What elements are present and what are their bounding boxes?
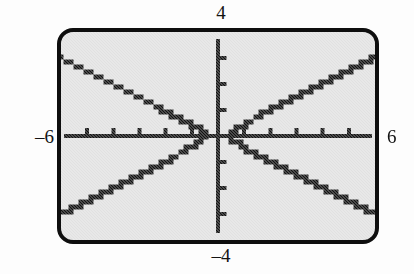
calculator-screen	[57, 28, 379, 244]
y-axis-max-label: 4	[0, 3, 414, 22]
x-axis-min-label: –6	[14, 127, 54, 146]
y-axis-min-label: –4	[0, 246, 414, 265]
x-axis-max-label: 6	[387, 127, 411, 146]
figure-canvas: 4 –6 6 –4	[0, 0, 414, 274]
hyperbola-plot	[61, 32, 375, 240]
